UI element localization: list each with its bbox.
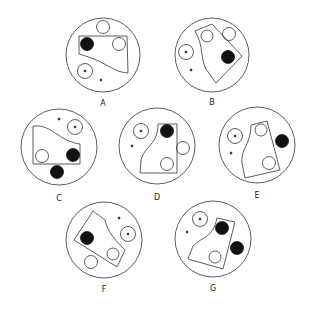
open-circle: [201, 30, 213, 42]
dot: [190, 69, 192, 71]
open-circle: [223, 28, 236, 41]
figure-label-b: B: [209, 98, 215, 107]
figure-f: [66, 202, 142, 278]
outer-circle: [66, 18, 140, 92]
open-circle: [97, 21, 110, 34]
dot: [127, 233, 129, 235]
open-circle: [263, 157, 276, 170]
dot: [118, 217, 120, 219]
filled-circle: [161, 125, 174, 138]
outer-circle: [175, 18, 249, 92]
filled-circle: [51, 166, 64, 179]
filled-circle: [81, 38, 94, 51]
filled-circle: [67, 149, 80, 162]
open-circle: [161, 158, 174, 171]
filled-circle: [276, 135, 289, 148]
filled-circle: [81, 232, 94, 245]
dot: [230, 152, 232, 154]
dot: [140, 130, 142, 132]
figure-label-d: D: [154, 193, 160, 202]
outer-circle: [66, 202, 142, 278]
figure-label-c: C: [56, 194, 62, 203]
dot: [234, 135, 236, 137]
dot: [199, 218, 201, 220]
figure-g: [175, 201, 251, 277]
dot: [131, 145, 133, 147]
figure-a: [66, 18, 140, 92]
dot: [74, 126, 76, 128]
filled-circle: [231, 242, 244, 255]
open-circle: [113, 38, 126, 51]
open-circle: [177, 142, 190, 155]
figure-b: [175, 18, 249, 92]
dot: [186, 231, 188, 233]
figure-e: [219, 107, 295, 183]
open-circle: [255, 124, 267, 136]
shape-outline: [242, 121, 280, 178]
dot: [185, 51, 187, 53]
figure-c: [21, 109, 97, 185]
figure-label-g: G: [210, 284, 216, 293]
dot: [58, 118, 60, 120]
open-circle: [85, 256, 98, 269]
dot: [100, 79, 102, 81]
figure-label-f: F: [102, 285, 107, 294]
dot: [84, 70, 86, 72]
figure-label-e: E: [254, 191, 259, 200]
open-circle: [209, 251, 221, 263]
puzzle-diagram: A B C: [0, 0, 311, 309]
filled-circle: [222, 51, 235, 64]
open-circle: [36, 150, 49, 163]
figure-d: [119, 108, 195, 184]
figure-label-a: A: [100, 99, 106, 108]
open-circle: [107, 248, 119, 260]
filled-circle: [216, 222, 229, 235]
outer-circle: [175, 201, 251, 277]
